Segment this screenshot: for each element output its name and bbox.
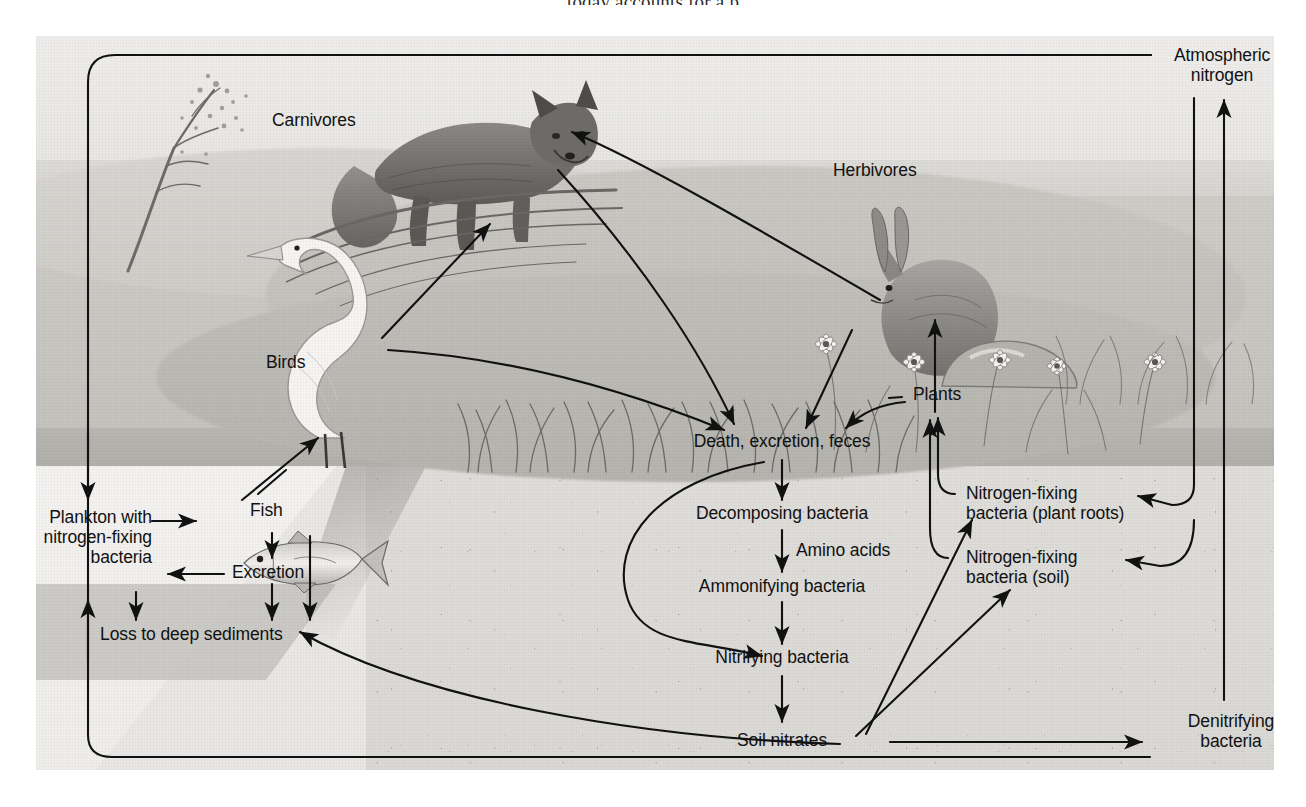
label-ammonifying-bacteria: Ammonifying bacteria bbox=[668, 577, 896, 597]
egret-illustration bbox=[241, 218, 401, 468]
label-soil-nitrates: Soil nitrates bbox=[692, 731, 872, 751]
label-carnivores: Carnivores bbox=[272, 111, 356, 131]
illustration-plate bbox=[36, 36, 1274, 770]
label-atmospheric-nitrogen: Atmospheric nitrogen bbox=[1152, 46, 1292, 86]
label-death-excretion-feces: Death, excretion, feces bbox=[668, 432, 896, 452]
label-plankton: Plankton with nitrogen-fixing bacteria bbox=[0, 508, 152, 568]
label-nitrogen-fixing-bacteria-plant-roots: Nitrogen-fixing bacteria (plant roots) bbox=[966, 484, 1124, 524]
label-loss-to-deep-sediments: Loss to deep sediments bbox=[100, 625, 283, 645]
label-fish: Fish bbox=[250, 501, 283, 521]
label-denitrifying-bacteria: Denitrifying bacteria bbox=[1160, 712, 1302, 752]
label-decomposing-bacteria: Decomposing bacteria bbox=[668, 504, 896, 524]
label-excretion: Excretion bbox=[232, 563, 304, 583]
figure-canvas: today accounts for a p bbox=[0, 0, 1306, 807]
grass-right bbox=[1046, 326, 1274, 406]
label-amino-acids: Amino acids bbox=[796, 541, 890, 561]
label-nitrogen-fixing-bacteria-soil: Nitrogen-fixing bacteria (soil) bbox=[966, 548, 1077, 588]
label-herbivores: Herbivores bbox=[833, 161, 917, 181]
page-running-text-fragment: today accounts for a p bbox=[0, 0, 1306, 5]
label-birds: Birds bbox=[266, 353, 305, 373]
label-nitrifying-bacteria: Nitrifying bacteria bbox=[668, 648, 896, 668]
label-plants: Plants bbox=[913, 385, 961, 405]
